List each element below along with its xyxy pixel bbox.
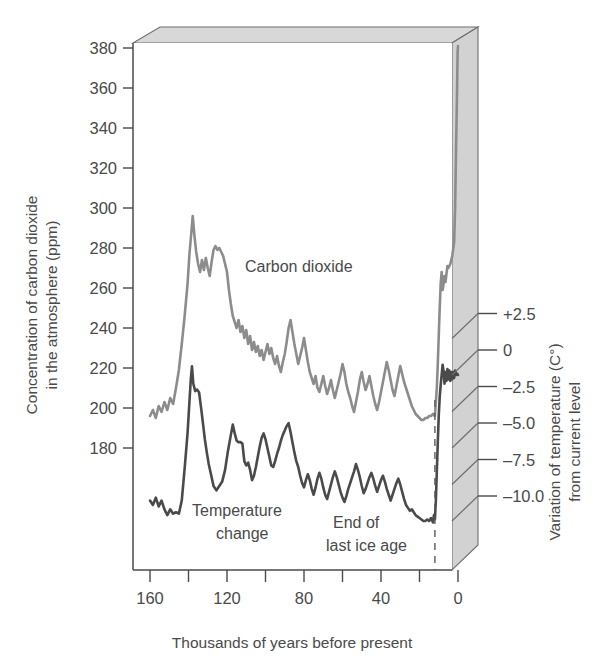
y-axis-left-tick-label: 360 xyxy=(89,79,117,97)
plot-box-front-face xyxy=(133,43,452,570)
y-axis-right-title-line2: from current level xyxy=(566,382,583,502)
y-axis-right-tick-label: –10.0 xyxy=(503,487,544,505)
x-axis-ticks: 16012080400 xyxy=(136,570,462,607)
end-of-last-ice-age-label-line2: last ice age xyxy=(326,537,407,554)
x-axis-tick-label: 0 xyxy=(453,589,462,607)
y-axis-right-title-line1: Variation of temperature (C°) xyxy=(546,343,563,540)
y-axis-left-tick-label: 200 xyxy=(89,399,117,417)
y-axis-left-ticks: 380360340320300280260240220200180 xyxy=(89,39,133,457)
x-axis-tick-label: 80 xyxy=(295,589,313,607)
x-axis-tick-label: 40 xyxy=(372,589,390,607)
x-axis-tick-label: 160 xyxy=(136,589,164,607)
y-axis-right-tick-label: +2.5 xyxy=(503,305,536,323)
temperature-change-label-line1: Temperature xyxy=(192,502,282,519)
y-axis-left-tick-label: 320 xyxy=(89,159,117,177)
plot-box-top-face xyxy=(133,27,478,43)
y-axis-left-tick-label: 280 xyxy=(89,239,117,257)
x-axis-title: Thousands of years before present xyxy=(172,634,413,651)
y-axis-right-tick-label: –2.5 xyxy=(503,378,535,396)
y-axis-left-tick-label: 340 xyxy=(89,119,117,137)
y-axis-left-tick-label: 380 xyxy=(89,39,117,57)
carbon-dioxide-label: Carbon dioxide xyxy=(245,258,353,275)
temperature-change-label-line2: change xyxy=(216,525,269,542)
y-axis-left-tick-label: 180 xyxy=(89,439,117,457)
y-axis-left-tick-label: 220 xyxy=(89,359,117,377)
y-axis-left-tick-label: 260 xyxy=(89,279,117,297)
y-axis-left-title-line2: in the atmosphere (ppm) xyxy=(43,221,60,390)
chart-figure: 380360340320300280260240220200180 +2.50–… xyxy=(0,0,615,659)
y-axis-left-title-line1: Concentration of carbon dioxide xyxy=(23,196,40,415)
y-axis-left-tick-label: 300 xyxy=(89,199,117,217)
y-axis-right-tick-label: –5.0 xyxy=(503,414,535,432)
x-axis-tick-label: 120 xyxy=(213,589,241,607)
y-axis-right-tick-label: 0 xyxy=(503,341,512,359)
co2-temperature-line-chart: 380360340320300280260240220200180 +2.50–… xyxy=(0,0,615,659)
y-axis-right-tick-label: –7.5 xyxy=(503,451,535,469)
end-of-last-ice-age-label-line1: End of xyxy=(333,514,380,531)
y-axis-left-tick-label: 240 xyxy=(89,319,117,337)
